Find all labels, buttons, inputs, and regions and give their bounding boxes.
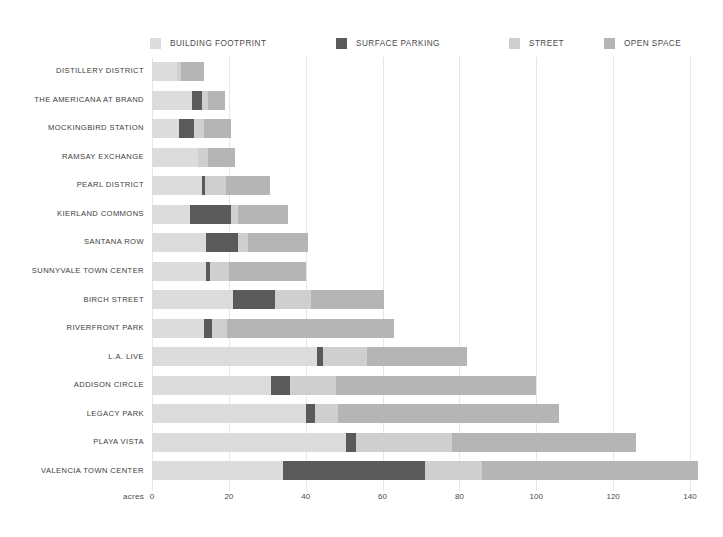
stacked-bar[interactable] — [152, 176, 270, 195]
legend-swatch-icon — [150, 38, 161, 49]
category-label: RAMSAY EXCHANGE — [0, 152, 144, 161]
stacked-bar[interactable] — [152, 262, 306, 281]
bar-row[interactable] — [152, 314, 690, 343]
bar-segment[interactable] — [204, 319, 212, 338]
gridline — [690, 57, 691, 491]
bar-segment[interactable] — [227, 319, 394, 338]
bar-segment[interactable] — [229, 262, 306, 281]
bar-segment[interactable] — [204, 119, 231, 138]
bar-row[interactable] — [152, 200, 690, 229]
bar-segment[interactable] — [315, 404, 338, 423]
stacked-bar[interactable] — [152, 119, 231, 138]
bar-segment[interactable] — [425, 461, 483, 480]
bar-segment[interactable] — [179, 119, 194, 138]
stacked-bar[interactable] — [152, 91, 225, 110]
bar-row[interactable] — [152, 342, 690, 371]
bar-segment[interactable] — [306, 404, 316, 423]
bar-segment[interactable] — [152, 347, 317, 366]
bar-segment[interactable] — [238, 205, 288, 224]
bar-row[interactable] — [152, 57, 690, 86]
bar-segment[interactable] — [233, 290, 275, 309]
bar-segment[interactable] — [205, 176, 226, 195]
category-label: PEARL DISTRICT — [0, 180, 144, 189]
bar-segment[interactable] — [336, 376, 536, 395]
category-label: SANTANA ROW — [0, 237, 144, 246]
bar-row[interactable] — [152, 285, 690, 314]
bar-segment[interactable] — [152, 319, 204, 338]
legend-item[interactable]: STREET — [509, 36, 564, 50]
bar-segment[interactable] — [210, 262, 229, 281]
bar-row[interactable] — [152, 371, 690, 400]
bar-segment[interactable] — [192, 91, 202, 110]
legend-item[interactable]: BUILDING FOOTPRINT — [150, 36, 266, 50]
bar-segment[interactable] — [208, 148, 235, 167]
bar-segment[interactable] — [198, 148, 208, 167]
category-label: SUNNYVALE TOWN CENTER — [0, 266, 144, 275]
chart-legend: BUILDING FOOTPRINTSURFACE PARKINGSTREETO… — [150, 36, 706, 50]
stacked-bar[interactable] — [152, 376, 536, 395]
bar-segment[interactable] — [283, 461, 425, 480]
legend-item[interactable]: OPEN SPACE — [604, 36, 681, 50]
bar-segment[interactable] — [275, 290, 312, 309]
bar-segment[interactable] — [356, 433, 452, 452]
bar-segment[interactable] — [248, 233, 308, 252]
bar-segment[interactable] — [152, 233, 206, 252]
bar-segment[interactable] — [226, 176, 270, 195]
stacked-bar[interactable] — [152, 148, 235, 167]
bar-segment[interactable] — [152, 404, 306, 423]
bar-segment[interactable] — [367, 347, 467, 366]
bar-segment[interactable] — [311, 290, 384, 309]
bar-segment[interactable] — [152, 290, 233, 309]
bar-segment[interactable] — [152, 91, 192, 110]
legend-item[interactable]: SURFACE PARKING — [336, 36, 440, 50]
bar-segment[interactable] — [152, 433, 346, 452]
bar-segment[interactable] — [452, 433, 636, 452]
bar-segment[interactable] — [271, 376, 290, 395]
bar-row[interactable] — [152, 86, 690, 115]
bar-row[interactable] — [152, 257, 690, 286]
stacked-bar[interactable] — [152, 433, 636, 452]
stacked-bar[interactable] — [152, 319, 394, 338]
legend-item-label: OPEN SPACE — [624, 38, 681, 49]
stacked-bar[interactable] — [152, 290, 384, 309]
bar-row[interactable] — [152, 114, 690, 143]
stacked-bar[interactable] — [152, 404, 559, 423]
bar-segment[interactable] — [238, 233, 248, 252]
bar-segment[interactable] — [231, 205, 239, 224]
bar-segment[interactable] — [152, 62, 177, 81]
x-axis-title: acres — [104, 492, 144, 501]
bar-segment[interactable] — [206, 233, 239, 252]
bar-segment[interactable] — [338, 404, 559, 423]
bar-segment[interactable] — [152, 262, 206, 281]
bar-segment[interactable] — [212, 319, 227, 338]
stacked-bar[interactable] — [152, 461, 698, 480]
bar-segment[interactable] — [181, 62, 204, 81]
bar-row[interactable] — [152, 143, 690, 172]
stacked-bar[interactable] — [152, 205, 288, 224]
bar-segment[interactable] — [152, 205, 190, 224]
stacked-bar[interactable] — [152, 233, 308, 252]
category-label: PLAYA VISTA — [0, 437, 144, 446]
bar-segment[interactable] — [152, 376, 271, 395]
stacked-bar[interactable] — [152, 347, 467, 366]
bar-segment[interactable] — [152, 461, 283, 480]
bar-row[interactable] — [152, 228, 690, 257]
x-tick-label: 80 — [455, 492, 464, 501]
bar-row[interactable] — [152, 428, 690, 457]
bar-segment[interactable] — [152, 119, 179, 138]
bar-rows — [152, 57, 690, 485]
bar-segment[interactable] — [152, 176, 202, 195]
bar-segment[interactable] — [194, 119, 204, 138]
bar-segment[interactable] — [208, 91, 225, 110]
bar-segment[interactable] — [482, 461, 697, 480]
bar-segment[interactable] — [152, 148, 198, 167]
bar-segment[interactable] — [290, 376, 336, 395]
bar-row[interactable] — [152, 399, 690, 428]
bar-segment[interactable] — [190, 205, 230, 224]
stacked-bar[interactable] — [152, 62, 204, 81]
bar-row[interactable] — [152, 456, 690, 485]
bar-segment[interactable] — [346, 433, 356, 452]
bar-segment[interactable] — [323, 347, 367, 366]
bar-row[interactable] — [152, 171, 690, 200]
category-label: LEGACY PARK — [0, 409, 144, 418]
